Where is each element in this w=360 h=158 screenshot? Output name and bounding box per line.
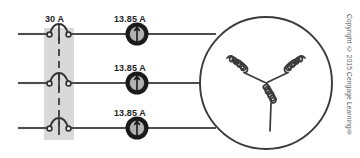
- breaker-terminal-1-left: [47, 32, 52, 37]
- breaker-terminal-1-right: [66, 32, 71, 37]
- breaker-terminal-3-left: [47, 126, 52, 131]
- three-phase-circuit-diagram: 30 A 13.85 A 13.85 A 13.85 A Copyright ©…: [0, 0, 360, 158]
- breaker-rating-label: 30 A: [45, 14, 64, 24]
- ammeter-2[interactable]: [126, 72, 149, 95]
- breaker-terminal-3-right: [66, 126, 71, 131]
- ammeter-reading-label-3: 13.85 A: [114, 108, 146, 118]
- breaker-terminal-2-left: [47, 81, 52, 86]
- ammeter-reading-label-1: 13.85 A: [114, 14, 146, 24]
- ammeter-reading-label-2: 13.85 A: [114, 63, 146, 73]
- breaker-terminal-2-right: [66, 81, 71, 86]
- ammeter-1[interactable]: [126, 23, 149, 46]
- ammeter-3[interactable]: [126, 117, 149, 140]
- copyright-notice: Copyright © 2015 Cengage Learning®: [346, 14, 360, 148]
